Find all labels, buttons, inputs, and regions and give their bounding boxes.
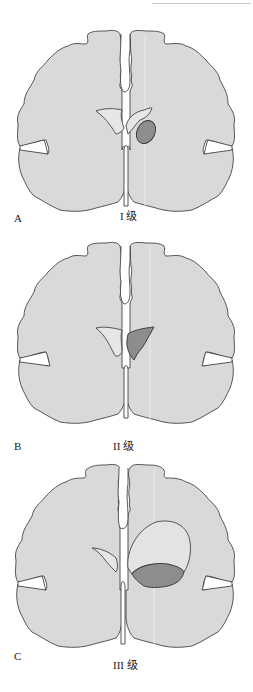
grade-label-b: II 级 (113, 437, 134, 453)
panel-letter-b: B (14, 440, 21, 452)
brain-section-grade-1 (0, 0, 253, 230)
longitudinal-fissure (120, 246, 130, 304)
brain-section-grade-2 (0, 230, 253, 460)
longitudinal-fissure (120, 34, 130, 92)
lower-fissure (124, 146, 128, 207)
grade-label-a: I 级 (120, 207, 137, 223)
panel-c: C III 级 (0, 460, 253, 692)
right-hemisphere (126, 30, 235, 211)
lower-fissure (124, 366, 128, 419)
longitudinal-fissure (118, 468, 128, 529)
grade-label-c: III 级 (113, 656, 138, 672)
panel-letter-c: C (14, 650, 21, 662)
lower-fissure (121, 582, 125, 645)
panel-a: A I 级 (0, 0, 253, 230)
panel-b: B II 级 (0, 230, 253, 460)
panel-letter-a: A (14, 212, 22, 224)
